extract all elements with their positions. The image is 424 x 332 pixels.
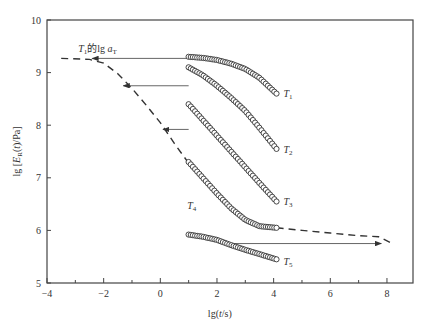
y-tick-label: 6 bbox=[36, 225, 41, 236]
x-tick-label: 6 bbox=[328, 288, 333, 299]
series-label-t5: T5 bbox=[284, 256, 294, 269]
series-t3 bbox=[186, 102, 279, 204]
y-tick-label: 7 bbox=[36, 172, 41, 183]
y-axis-label: lg [ER(t)/Pa] bbox=[11, 127, 24, 177]
x-tick-label: −2 bbox=[98, 288, 109, 299]
series-t5 bbox=[186, 232, 279, 262]
series-label-t4: T4 bbox=[187, 200, 197, 213]
x-tick-label: 4 bbox=[271, 288, 276, 299]
series-label-t1: T1 bbox=[284, 88, 294, 101]
series-t4 bbox=[186, 159, 279, 230]
x-axis-label: lg(t/s) bbox=[208, 308, 232, 320]
series-label-t2: T2 bbox=[284, 144, 294, 157]
y-tick-label: 8 bbox=[36, 120, 41, 131]
x-tick-label: −4 bbox=[42, 288, 53, 299]
series-t2 bbox=[186, 65, 279, 152]
x-tick-label: 8 bbox=[384, 288, 389, 299]
series-label-t3: T3 bbox=[284, 196, 294, 209]
y-tick-label: 10 bbox=[31, 15, 41, 26]
y-tick-label: 5 bbox=[36, 278, 41, 289]
x-tick-label: 0 bbox=[158, 288, 163, 299]
x-tick-label: 2 bbox=[214, 288, 219, 299]
y-tick-label: 9 bbox=[36, 67, 41, 78]
shift-factor-annotation: T1的lg aT bbox=[78, 42, 117, 56]
relaxation-master-curve-chart: −4−2024685678910lg(t/s)lg [ER(t)/Pa]T1T2… bbox=[0, 0, 424, 332]
